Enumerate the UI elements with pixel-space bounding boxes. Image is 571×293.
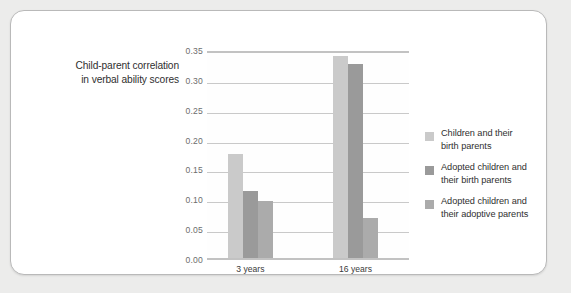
bar [333, 56, 348, 258]
screenshot-root: Child-parent correlation in verbal abili… [0, 0, 571, 293]
y-axis-tick-label: 0.00 [167, 255, 203, 265]
legend-item-label-line1: Adopted children and [441, 196, 527, 206]
chart-axis-title-line2: in verbal ability scores [29, 73, 179, 87]
bar [348, 64, 363, 258]
bar [228, 154, 243, 259]
legend-item-label: Adopted children andtheir birth parents [441, 161, 527, 186]
chart-card: Child-parent correlation in verbal abili… [10, 10, 547, 275]
legend-item-label-line2: their birth parents [441, 175, 512, 185]
y-axis-tick-labels: 0.000.050.100.150.200.250.300.35 [163, 51, 203, 260]
legend-item: Children and theirbirth parents [425, 127, 553, 152]
y-axis-tick-label: 0.20 [167, 136, 203, 146]
legend-item-label: Children and theirbirth parents [441, 127, 513, 152]
legend-item: Adopted children andtheir adoptive paren… [425, 195, 553, 220]
y-axis-tick-label: 0.15 [167, 165, 203, 175]
y-axis-tick-label: 0.10 [167, 195, 203, 205]
legend-item-label-line1: Children and their [441, 128, 513, 138]
bar [243, 191, 258, 258]
legend-swatch-icon [425, 132, 434, 141]
legend-item-label-line2: birth parents [441, 141, 491, 151]
chart-legend: Children and theirbirth parentsAdopted c… [425, 127, 553, 229]
legend-item: Adopted children andtheir birth parents [425, 161, 553, 186]
x-axis-tick-label: 3 years [236, 264, 264, 274]
y-axis-tick-label: 0.35 [167, 46, 203, 56]
plot-area-wrapper: 3 years16 years [207, 51, 409, 260]
legend-swatch-icon [425, 200, 434, 209]
bar [258, 201, 273, 258]
y-axis-tick-label: 0.05 [167, 225, 203, 235]
chart-axis-title: Child-parent correlation in verbal abili… [29, 59, 179, 86]
bar [363, 218, 378, 258]
bars-layer [207, 53, 409, 258]
legend-item-label-line2: their adoptive parents [441, 209, 528, 219]
y-axis-tick-label: 0.25 [167, 106, 203, 116]
x-axis-tick-label: 16 years [339, 264, 372, 274]
legend-item-label: Adopted children andtheir adoptive paren… [441, 195, 528, 220]
legend-swatch-icon [425, 166, 434, 175]
plot-area [207, 51, 409, 260]
legend-item-label-line1: Adopted children and [441, 162, 527, 172]
y-axis-tick-label: 0.30 [167, 76, 203, 86]
